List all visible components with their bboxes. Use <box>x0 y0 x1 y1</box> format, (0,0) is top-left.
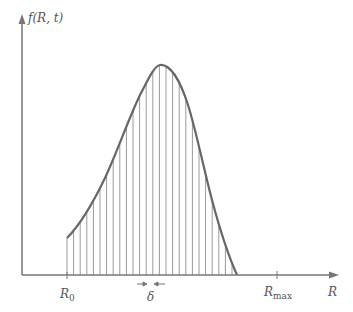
distribution-curve <box>67 65 237 275</box>
r0-label: R0 <box>59 287 75 303</box>
delta-marker <box>137 282 165 286</box>
x-axis-arrow-icon <box>329 272 339 279</box>
distribution-diagram: f(R, t) R R0 Rmax δ <box>0 0 353 312</box>
y-axis-label: f(R, t) <box>27 11 64 25</box>
x-axis-label: R <box>327 285 337 299</box>
delta-label: δ <box>147 290 154 304</box>
rmax-label: Rmax <box>263 285 292 301</box>
y-axis-arrow-icon <box>19 14 26 24</box>
strip-lines <box>67 65 232 275</box>
